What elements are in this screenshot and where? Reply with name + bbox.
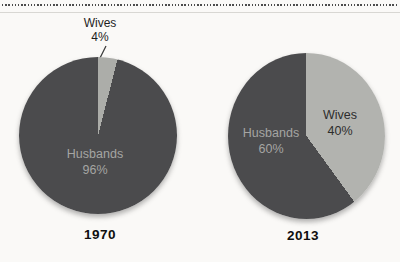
wives-2013-value: 40%: [300, 124, 380, 140]
dotted-separator-line: [2, 4, 398, 6]
pie-1970: [19, 57, 177, 214]
husbands-1970-value: 96%: [35, 163, 155, 179]
solid-separator-line: [0, 12, 400, 13]
husbands-2013-value: 60%: [211, 142, 331, 158]
page: Wives 4% Husbands 96% 1970 Husbands 60% …: [0, 0, 400, 262]
year-label-1970: 1970: [60, 227, 140, 242]
wives-1970-callout-value: 4%: [60, 31, 140, 44]
wives-2013-label: Wives: [300, 108, 380, 124]
year-label-2013: 2013: [263, 228, 343, 243]
husbands-1970-label: Husbands: [35, 147, 155, 163]
wives-1970-callout-label: Wives: [60, 17, 140, 30]
wives-2013-inside-label: Wives 40%: [300, 108, 380, 139]
husbands-1970-inside-label: Husbands 96%: [35, 147, 155, 178]
